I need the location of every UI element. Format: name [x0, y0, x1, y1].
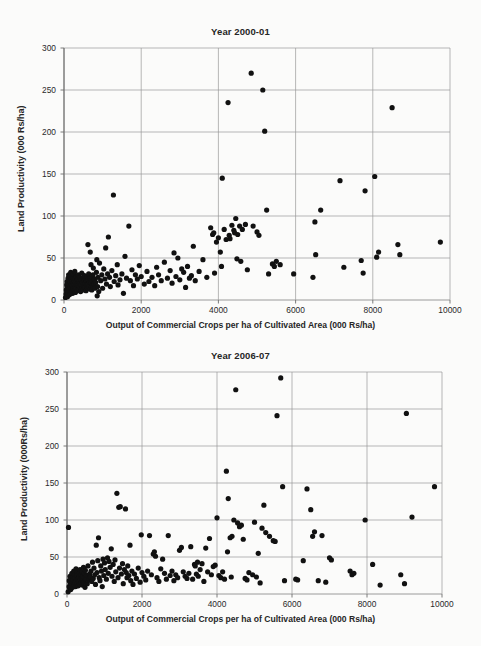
data-point: [164, 577, 169, 582]
data-point: [137, 263, 142, 268]
data-point: [260, 87, 265, 92]
data-point: [323, 580, 328, 585]
data-point: [101, 266, 106, 271]
data-point: [121, 581, 126, 586]
data-point: [181, 569, 186, 574]
data-point: [198, 567, 203, 572]
x-tick-label: 10000: [417, 599, 467, 609]
data-point: [256, 551, 261, 556]
data-point: [149, 572, 154, 577]
data-point: [168, 268, 173, 273]
data-point: [88, 250, 93, 255]
data-point: [97, 578, 102, 583]
y-tick-label: 150: [25, 478, 59, 488]
data-point: [109, 546, 114, 551]
data-point: [99, 272, 104, 277]
y-tick-label: 250: [25, 404, 59, 414]
data-point: [318, 208, 323, 213]
data-point: [177, 277, 182, 282]
data-point: [254, 574, 259, 579]
y-tick-label: 100: [25, 515, 59, 525]
y-tick-label: 0: [25, 589, 59, 599]
data-point: [233, 216, 238, 221]
data-point: [208, 225, 213, 230]
data-point: [404, 411, 409, 416]
data-point: [238, 259, 243, 264]
data-point: [113, 569, 118, 574]
data-point: [213, 563, 218, 568]
data-point: [310, 275, 315, 280]
data-point: [402, 581, 407, 586]
data-point: [201, 579, 206, 584]
data-point: [152, 283, 157, 288]
y-axis-title: Land Productivity (000Rs/ha): [19, 417, 29, 541]
data-point: [162, 571, 167, 576]
y-tick-label: 150: [22, 169, 56, 179]
x-tick-label: 4000: [192, 599, 242, 609]
data-point: [102, 560, 107, 565]
data-point: [159, 278, 164, 283]
data-point: [147, 533, 152, 538]
x-tick-label: 8000: [342, 599, 392, 609]
data-point: [169, 568, 174, 573]
data-point: [132, 571, 137, 576]
x-tick-label: 6000: [271, 305, 321, 315]
data-point: [203, 546, 208, 551]
scatter-chart-2006-07: Year 2006-07 050100150200250300020004000…: [0, 336, 481, 646]
data-point: [211, 230, 216, 235]
y-tick-label: 100: [22, 211, 56, 221]
data-point: [374, 255, 379, 260]
data-point: [222, 577, 227, 582]
data-point: [138, 580, 143, 585]
data-point: [199, 561, 204, 566]
data-point: [398, 572, 403, 577]
data-point: [216, 235, 221, 240]
data-point: [252, 520, 257, 525]
data-point: [378, 583, 383, 588]
data-point: [119, 271, 124, 276]
data-point: [184, 576, 189, 581]
data-point: [229, 534, 234, 539]
data-point: [263, 530, 268, 535]
data-point: [341, 265, 346, 270]
data-point: [109, 268, 114, 273]
data-point: [113, 273, 118, 278]
data-point: [259, 526, 264, 531]
data-point: [359, 258, 364, 263]
data-point: [117, 277, 122, 282]
data-point: [97, 260, 102, 265]
data-point: [126, 573, 131, 578]
data-point: [337, 178, 342, 183]
data-point: [395, 242, 400, 247]
data-point: [134, 576, 139, 581]
data-point: [152, 549, 157, 554]
data-point: [224, 469, 229, 474]
x-axis-title: Output of Commercial Crops per ha of Cul…: [0, 320, 481, 330]
data-point: [85, 563, 90, 568]
data-point: [432, 484, 437, 489]
data-point: [214, 515, 219, 520]
data-point: [139, 532, 144, 537]
data-point: [114, 491, 119, 496]
data-point: [186, 571, 191, 576]
y-tick-label: 50: [22, 253, 56, 263]
data-point: [158, 566, 163, 571]
data-point: [125, 563, 130, 568]
data-point: [96, 535, 101, 540]
x-tick-label: 10000: [425, 305, 475, 315]
data-point: [361, 271, 366, 276]
data-point: [119, 571, 124, 576]
data-point: [240, 227, 245, 232]
x-axis-title: Output of Commercial Crops per ha of Cul…: [0, 614, 481, 624]
data-point: [312, 219, 317, 224]
data-point: [166, 533, 171, 538]
data-point: [149, 275, 154, 280]
data-point: [196, 574, 201, 579]
data-point: [128, 278, 133, 283]
data-point: [390, 105, 395, 110]
data-point: [207, 536, 212, 541]
x-tick-label: 8000: [348, 305, 398, 315]
y-tick-label: 300: [25, 367, 59, 377]
data-point: [209, 572, 214, 577]
data-point: [304, 486, 309, 491]
